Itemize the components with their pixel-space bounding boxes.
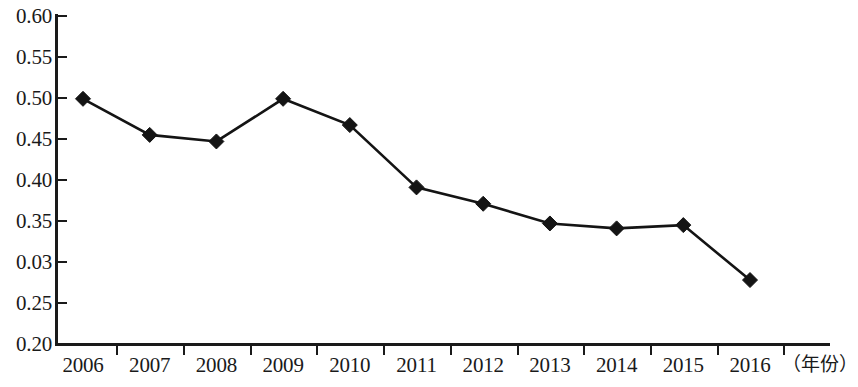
data-series bbox=[0, 0, 858, 387]
y-axis-tick-mark bbox=[58, 97, 67, 99]
data-point-marker bbox=[476, 196, 491, 211]
y-axis-labels: 0.600.550.500.450.400.350.030.250.20 bbox=[0, 0, 52, 387]
y-axis-tick-label: 0.60 bbox=[0, 6, 52, 27]
chart-figure: 0.600.550.500.450.400.350.030.250.20 200… bbox=[0, 0, 858, 387]
x-axis-caption: （年份） bbox=[782, 354, 858, 375]
x-axis-tick-label: 2006 bbox=[48, 354, 118, 377]
y-axis-tick-mark bbox=[58, 56, 67, 58]
x-axis-tick-label: 2013 bbox=[515, 354, 585, 377]
x-axis-tick-label: 2015 bbox=[648, 354, 718, 377]
x-axis-tick-label: 2012 bbox=[448, 354, 518, 377]
y-axis-tick-label: 0.50 bbox=[0, 88, 52, 109]
data-point-marker bbox=[276, 91, 291, 106]
data-point-marker bbox=[743, 273, 758, 288]
data-point-marker bbox=[676, 218, 691, 233]
data-point-marker bbox=[76, 91, 91, 106]
y-axis-tick-mark bbox=[58, 220, 67, 222]
y-axis-tick-label: 0.45 bbox=[0, 129, 52, 150]
y-axis-line bbox=[55, 14, 58, 346]
series-markers bbox=[76, 91, 758, 287]
y-axis-tick-mark bbox=[58, 302, 67, 304]
x-axis-tick-label: 2010 bbox=[315, 354, 385, 377]
y-axis-tick-label: 0.20 bbox=[0, 334, 52, 355]
y-axis-tick-mark bbox=[58, 138, 67, 140]
data-point-marker bbox=[542, 216, 557, 231]
y-axis-tick-mark bbox=[58, 261, 67, 263]
data-point-marker bbox=[609, 221, 624, 236]
data-point-marker bbox=[342, 118, 357, 133]
y-axis-tick-label: 0.40 bbox=[0, 170, 52, 191]
series-line bbox=[83, 99, 750, 280]
data-point-marker bbox=[142, 127, 157, 142]
y-axis-tick-label: 0.55 bbox=[0, 47, 52, 68]
y-axis-tick-mark bbox=[58, 179, 67, 181]
x-axis-tick-label: 2007 bbox=[115, 354, 185, 377]
y-axis-tick-label: 0.35 bbox=[0, 211, 52, 232]
x-axis-tick-label: 2009 bbox=[248, 354, 318, 377]
x-axis-tick-label: 2014 bbox=[582, 354, 652, 377]
x-axis-tick-label: 2008 bbox=[181, 354, 251, 377]
y-axis-tick-label: 0.03 bbox=[0, 252, 52, 273]
x-axis-tick-label: 2011 bbox=[382, 354, 452, 377]
y-axis-tick-mark bbox=[58, 15, 67, 17]
x-axis-line bbox=[55, 343, 830, 346]
y-axis-tick-label: 0.25 bbox=[0, 293, 52, 314]
data-point-marker bbox=[209, 134, 224, 149]
x-axis-tick-label: 2016 bbox=[715, 354, 785, 377]
data-point-marker bbox=[409, 180, 424, 195]
